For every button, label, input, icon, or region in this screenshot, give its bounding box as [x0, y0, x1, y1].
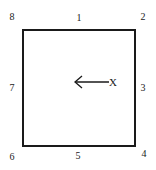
position-label-2: 2 [141, 12, 146, 22]
position-label-7: 7 [10, 83, 15, 93]
diagram-canvas: 1 2 3 4 5 6 7 8 X [0, 0, 156, 170]
position-label-6: 6 [10, 152, 15, 162]
position-label-4: 4 [142, 149, 147, 159]
marker-x-label: X [109, 77, 117, 88]
position-label-8: 8 [10, 12, 15, 22]
position-label-5: 5 [76, 151, 81, 161]
position-label-1: 1 [77, 13, 82, 23]
left-arrow-icon [72, 75, 110, 89]
position-label-3: 3 [141, 83, 146, 93]
